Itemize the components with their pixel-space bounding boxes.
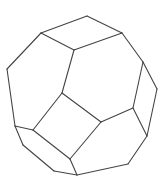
polyhedron-diagram [0,0,167,177]
edge-KN [15,126,23,145]
edge-CD [74,33,122,50]
edge-AC [87,16,122,33]
edge-BE [7,33,41,69]
edge-PM [128,136,147,164]
edge-NQ [23,145,54,171]
edge-MH [147,89,157,136]
edge-IF [133,62,143,108]
edge-DG [62,50,74,93]
polyhedron-edges [7,16,157,175]
edge-LO [33,130,70,159]
edge-GL [33,93,62,130]
edge-JO [70,122,101,159]
edge-GJ [62,93,101,122]
edge-IM [133,108,147,136]
edge-QR [54,171,77,175]
edge-KL [15,126,33,130]
edge-EK [7,69,15,126]
edge-RP [77,164,128,175]
edge-FC [122,33,143,62]
edge-BD [41,33,74,50]
edge-AB [41,16,87,33]
edge-OR [70,159,77,175]
edge-HF [143,62,157,89]
edge-JI [101,108,133,122]
